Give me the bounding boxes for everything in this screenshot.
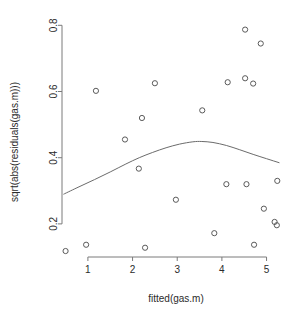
x-axis-tick-label: 5	[264, 264, 270, 275]
y-axis-title: sqrt(abs(residuals(gas.m)))	[9, 82, 20, 202]
scale-location-plot: 0.20.40.60.8 12345 fitted(gas.m) sqrt(ab…	[0, 0, 308, 320]
y-axis-tick-label: 0.8	[48, 18, 59, 32]
x-axis-tick-label: 3	[174, 264, 180, 275]
x-axis-title: fitted(gas.m)	[148, 293, 204, 304]
y-axis-tick-label: 0.6	[48, 84, 59, 98]
x-axis-tick-label: 2	[130, 264, 136, 275]
y-axis-tick-label: 0.2	[48, 217, 59, 231]
x-axis-tick-label: 1	[85, 264, 91, 275]
plot-canvas: 0.20.40.60.8 12345 fitted(gas.m) sqrt(ab…	[0, 0, 308, 320]
y-axis-tick-label: 0.4	[48, 150, 59, 164]
plot-background	[0, 0, 308, 320]
x-axis-tick-label: 4	[219, 264, 225, 275]
